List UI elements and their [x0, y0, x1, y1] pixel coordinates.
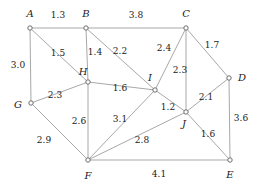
edge-weight-c-j: 2.3: [173, 66, 187, 75]
edge-c-d: [186, 28, 229, 78]
node-label-i: I: [148, 73, 152, 83]
node-marker-i[interactable]: [153, 88, 157, 92]
node-label-h: H: [79, 67, 88, 77]
graph-figure: 1.33.83.01.51.42.22.41.72.32.31.61.22.13…: [0, 0, 259, 191]
edge-weight-a-b: 1.3: [51, 11, 65, 20]
edge-i-f: [88, 90, 155, 160]
node-label-d: D: [238, 73, 246, 83]
edge-weight-d-e: 3.6: [234, 114, 248, 123]
edge-weight-i-f: 3.1: [113, 115, 127, 124]
edge-weight-h-i: 1.6: [113, 84, 127, 93]
graph-canvas: [0, 0, 259, 191]
edge-weight-c-d: 1.7: [205, 41, 219, 50]
node-label-j: J: [182, 119, 186, 129]
edge-weight-a-h: 1.5: [51, 49, 65, 58]
edge-weight-b-c: 3.8: [129, 11, 143, 20]
edge-weight-g-h: 2.3: [48, 91, 62, 100]
edge-weight-i-j: 1.2: [161, 103, 175, 112]
node-marker-d[interactable]: [227, 76, 231, 80]
node-marker-a[interactable]: [28, 26, 32, 30]
node-label-e: E: [226, 170, 233, 180]
node-marker-g[interactable]: [29, 101, 33, 105]
edge-g-f: [31, 103, 88, 160]
node-marker-h[interactable]: [86, 80, 90, 84]
edge-weight-a-g: 3.0: [11, 61, 25, 70]
edge-weight-j-f: 2.8: [135, 136, 149, 145]
edge-weight-b-i: 2.2: [113, 47, 127, 56]
node-marker-b[interactable]: [84, 26, 88, 30]
edge-a-g: [30, 28, 31, 103]
node-label-a: A: [26, 9, 33, 19]
node-marker-j[interactable]: [184, 110, 188, 114]
edge-weight-d-j: 2.1: [199, 93, 213, 102]
node-label-g: G: [14, 100, 22, 110]
node-marker-e[interactable]: [228, 158, 232, 162]
node-marker-f[interactable]: [86, 158, 90, 162]
node-label-b: B: [82, 9, 89, 19]
edge-c-i: [155, 28, 186, 90]
edge-d-e: [229, 78, 230, 160]
edge-weight-h-f: 2.6: [72, 117, 86, 126]
node-marker-c[interactable]: [184, 26, 188, 30]
node-label-f: F: [85, 171, 92, 181]
edge-weight-g-f: 2.9: [37, 136, 51, 145]
edge-weight-j-e: 1.6: [201, 130, 215, 139]
edge-weight-c-i: 2.4: [157, 44, 171, 53]
node-label-c: C: [182, 9, 190, 19]
edge-weight-b-h: 1.4: [88, 48, 102, 57]
edge-weight-f-e: 4.1: [152, 170, 166, 179]
edge-b-i: [86, 28, 155, 90]
